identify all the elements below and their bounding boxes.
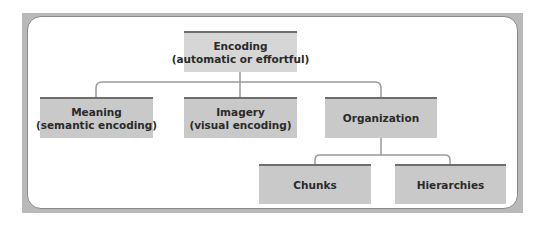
node-meaning-subtitle: (semantic encoding): [36, 119, 157, 132]
node-imagery-title: Imagery: [216, 106, 265, 119]
node-hierarchies: Hierarchies: [395, 164, 506, 204]
node-hierarchies-title: Hierarchies: [417, 179, 485, 192]
node-meaning-title: Meaning: [71, 106, 122, 119]
node-encoding: Encoding (automatic or effortful): [184, 31, 297, 72]
node-chunks: Chunks: [259, 164, 371, 204]
node-organization: Organization: [325, 97, 437, 138]
node-encoding-subtitle: (automatic or effortful): [172, 53, 310, 66]
node-organization-title: Organization: [343, 112, 419, 125]
node-meaning: Meaning (semantic encoding): [40, 97, 153, 138]
node-imagery-subtitle: (visual encoding): [189, 119, 291, 132]
node-imagery: Imagery (visual encoding): [184, 97, 297, 138]
node-encoding-title: Encoding: [213, 40, 267, 53]
node-chunks-title: Chunks: [293, 179, 336, 192]
